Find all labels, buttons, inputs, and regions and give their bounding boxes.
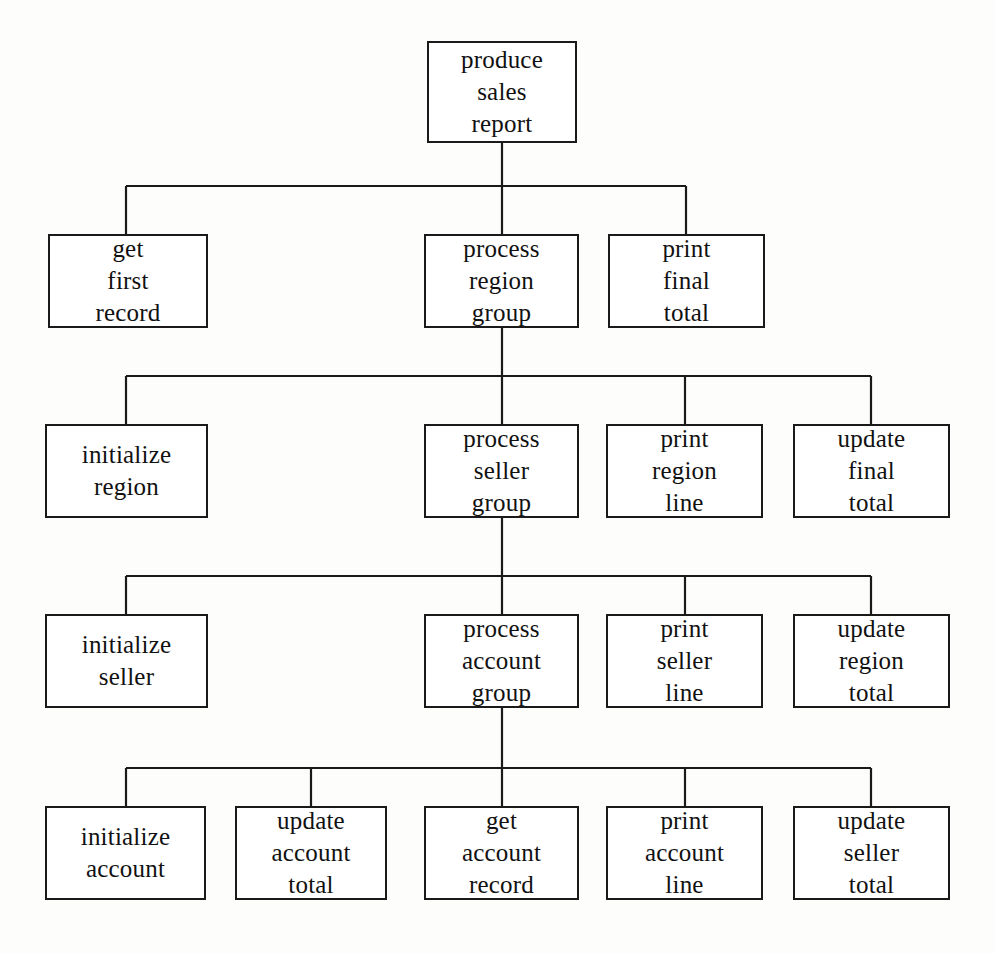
node-get-first-record[interactable]: getfirstrecord [48, 234, 208, 328]
node-label-line: line [665, 869, 703, 901]
node-label-line: update [277, 805, 345, 837]
node-label-line: account [645, 837, 724, 869]
node-label-line: region [94, 471, 159, 503]
node-update-seller-total[interactable]: updatesellertotal [793, 806, 950, 900]
node-label-line: update [838, 613, 906, 645]
node-get-account-record[interactable]: getaccountrecord [424, 806, 579, 900]
node-produce-sales-report[interactable]: producesalesreport [427, 41, 577, 143]
node-process-account-group[interactable]: processaccountgroup [424, 614, 579, 708]
node-label-line: record [95, 297, 160, 329]
node-label-line: region [839, 645, 904, 677]
structure-chart-canvas: producesalesreportgetfirstrecordprocessr… [0, 0, 995, 954]
node-update-region-total[interactable]: updateregiontotal [793, 614, 950, 708]
node-label-line: get [486, 805, 517, 837]
node-print-seller-line[interactable]: printsellerline [606, 614, 763, 708]
node-label-line: first [107, 265, 148, 297]
node-label-line: initialize [82, 629, 171, 661]
node-initialize-seller[interactable]: initializeseller [45, 614, 208, 708]
node-label-line: produce [461, 44, 543, 76]
node-initialize-region[interactable]: initializeregion [45, 424, 208, 518]
node-label-line: line [665, 487, 703, 519]
node-label-line: initialize [82, 439, 171, 471]
node-label-line: record [469, 869, 534, 901]
node-update-account-total[interactable]: updateaccounttotal [235, 806, 387, 900]
node-label-line: group [472, 677, 531, 709]
node-label-line: total [288, 869, 333, 901]
node-label-line: group [472, 297, 531, 329]
node-label-line: seller [99, 661, 154, 693]
node-label-line: print [660, 805, 708, 837]
node-label-line: account [462, 645, 541, 677]
node-label-line: line [665, 677, 703, 709]
node-label-line: account [271, 837, 350, 869]
node-label-line: process [463, 423, 539, 455]
node-print-final-total[interactable]: printfinaltotal [608, 234, 765, 328]
node-label-line: seller [474, 455, 529, 487]
node-label-line: initialize [81, 821, 170, 853]
node-label-line: total [664, 297, 709, 329]
node-label-line: region [469, 265, 534, 297]
node-label-line: final [663, 265, 710, 297]
node-label-line: total [849, 869, 894, 901]
node-process-seller-group[interactable]: processsellergroup [424, 424, 579, 518]
node-label-line: final [848, 455, 895, 487]
node-label-line: account [86, 853, 165, 885]
node-label-line: region [652, 455, 717, 487]
node-label-line: total [849, 677, 894, 709]
node-label-line: process [463, 233, 539, 265]
node-label-line: update [838, 805, 906, 837]
node-label-line: account [462, 837, 541, 869]
node-label-line: seller [657, 645, 712, 677]
node-label-line: process [463, 613, 539, 645]
node-label-line: seller [844, 837, 899, 869]
node-label-line: report [472, 108, 533, 140]
node-label-line: sales [477, 76, 527, 108]
node-label-line: get [112, 233, 143, 265]
node-label-line: total [849, 487, 894, 519]
node-initialize-account[interactable]: initializeaccount [45, 806, 206, 900]
node-label-line: print [662, 233, 710, 265]
node-label-line: update [838, 423, 906, 455]
node-process-region-group[interactable]: processregiongroup [424, 234, 579, 328]
node-print-account-line[interactable]: printaccountline [606, 806, 763, 900]
node-label-line: print [660, 423, 708, 455]
node-label-line: print [660, 613, 708, 645]
node-print-region-line[interactable]: printregionline [606, 424, 763, 518]
node-update-final-total[interactable]: updatefinaltotal [793, 424, 950, 518]
node-label-line: group [472, 487, 531, 519]
